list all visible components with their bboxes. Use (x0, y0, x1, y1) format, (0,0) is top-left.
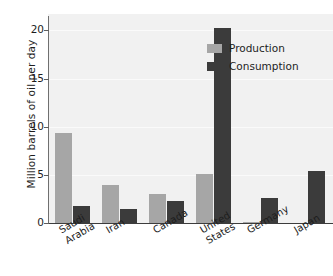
legend-swatch-production-icon (207, 44, 222, 53)
bar-production-saudi-arabia (55, 133, 72, 223)
legend-item-consumption: Consumption (207, 60, 299, 72)
chart-screenshot: Million barrels of oil per day 05101520 … (0, 0, 333, 276)
legend-item-production: Production (207, 42, 299, 54)
legend: Production Consumption (207, 42, 299, 78)
bars-layer (0, 0, 333, 223)
bar-chart: Million barrels of oil per day 05101520 … (0, 0, 333, 276)
bar-production-united-states (196, 174, 213, 223)
bar-production-iran (102, 185, 119, 224)
legend-swatch-consumption-icon (207, 62, 222, 71)
y-tick-mark (44, 223, 49, 224)
legend-label-consumption: Consumption (229, 60, 299, 72)
legend-label-production: Production (229, 42, 285, 54)
